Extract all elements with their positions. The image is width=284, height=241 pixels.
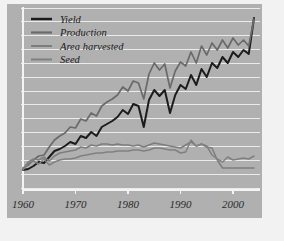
x-tick-label: 1980 — [117, 198, 140, 210]
data-series-group — [23, 18, 254, 170]
legend-label-yield: Yield — [60, 14, 82, 25]
x-axis-tick-labels: 19601970198019902000 — [12, 198, 245, 210]
axis-lines-group — [23, 7, 260, 194]
x-tick-label: 1990 — [170, 198, 193, 210]
legend-label-production: Production — [59, 27, 107, 38]
legend-label-seed: Seed — [60, 54, 81, 65]
series-line-yield — [23, 18, 254, 170]
chart-plot-panel: 19601970198019902000 YieldProductionArea… — [7, 4, 262, 218]
chart-figure: 19601970198019902000 YieldProductionArea… — [0, 0, 284, 241]
x-tick-label: 1960 — [12, 198, 35, 210]
legend-label-area-harvested: Area harvested — [59, 41, 124, 52]
line-chart-svg: 19601970198019902000 YieldProductionArea… — [7, 4, 262, 218]
x-tick-label: 1970 — [65, 198, 88, 210]
x-tick-label: 2000 — [222, 198, 245, 210]
